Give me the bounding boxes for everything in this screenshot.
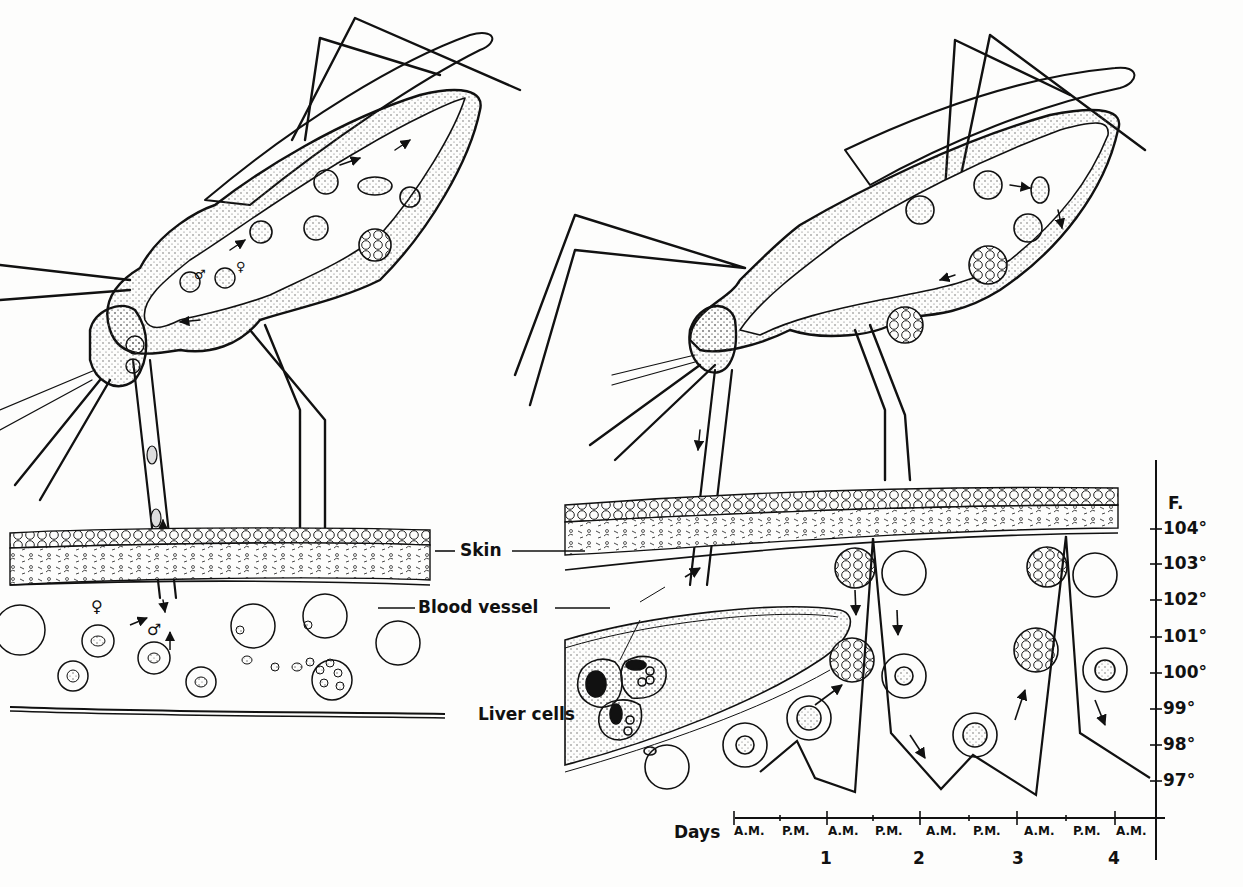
y-tick-101: 101°	[1163, 626, 1207, 646]
y-tick-104: 104°	[1163, 518, 1207, 538]
x-tick-pm: P.M.	[973, 824, 1001, 838]
female-symbol-gut: ♀	[236, 259, 246, 274]
ookinete	[358, 177, 392, 195]
oocyst-sporozoites	[969, 246, 1007, 284]
gametocyte	[126, 359, 140, 373]
label-blood-vessel: Blood vessel	[418, 597, 538, 617]
x-tick-am: A.M.	[734, 824, 765, 838]
label-liver-cells: Liver cells	[478, 704, 575, 724]
y-tick-100: 100°	[1163, 662, 1207, 682]
y-tick-102: 102°	[1163, 589, 1207, 609]
oocyst	[314, 170, 338, 194]
ookinete	[1031, 177, 1049, 203]
oocyst	[304, 216, 328, 240]
x-tick-am: A.M.	[1024, 824, 1055, 838]
right-leg-mid	[590, 365, 715, 460]
exflagellating-gamete	[250, 221, 272, 243]
x-tick-am: A.M.	[828, 824, 859, 838]
label-skin: Skin	[460, 540, 501, 560]
x-tick-pm: P.M.	[875, 824, 903, 838]
left-leg-hind	[250, 325, 325, 530]
y-tick-103: 103°	[1163, 553, 1207, 573]
male-symbol: ♂	[147, 620, 161, 639]
x-axis-label: Days	[674, 822, 720, 842]
left-antenna	[0, 370, 95, 430]
x-tick-pm: P.M.	[1073, 824, 1101, 838]
oocyst	[400, 187, 420, 207]
gametocyte	[215, 268, 235, 288]
y-tick-98: 98°	[1163, 734, 1195, 754]
right-head	[689, 306, 736, 372]
oocyst-sporozoites	[359, 229, 391, 261]
right-proboscis	[690, 370, 732, 585]
fever-curve	[760, 536, 1150, 795]
right-leg-hind	[855, 325, 910, 480]
gametocyte	[126, 336, 144, 354]
salivary-gland	[887, 307, 923, 343]
liver	[565, 568, 850, 772]
x-tick-am: A.M.	[926, 824, 957, 838]
y-axis-unit: F.	[1168, 493, 1184, 513]
right-antenna	[612, 355, 695, 385]
left-leg-front	[0, 265, 130, 300]
day-label-2: 2	[913, 848, 925, 868]
x-tick-am: A.M.	[1116, 824, 1147, 838]
microgamete	[906, 196, 934, 224]
left-mosquito	[0, 18, 520, 612]
left-skin	[10, 528, 430, 585]
zygote	[974, 171, 1002, 199]
y-tick-99: 99°	[1163, 698, 1195, 718]
x-tick-pm: P.M.	[782, 824, 810, 838]
oocyst	[1014, 214, 1042, 242]
male-symbol-gut: ♂	[194, 267, 206, 282]
day-label-1: 1	[820, 848, 832, 868]
diagram-left-mosquito-feeding	[0, 0, 1243, 887]
day-label-4: 4	[1108, 848, 1120, 868]
left-blood-vessel	[0, 594, 445, 718]
y-tick-97: 97°	[1163, 770, 1195, 790]
day-label-3: 3	[1012, 848, 1024, 868]
female-symbol: ♀	[91, 597, 103, 616]
